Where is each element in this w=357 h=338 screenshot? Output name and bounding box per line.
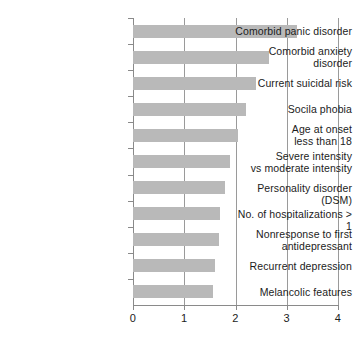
x-tick-0 bbox=[133, 305, 134, 310]
category-tick bbox=[128, 227, 133, 228]
bar bbox=[133, 207, 220, 220]
x-tick-label-0: 0 bbox=[118, 312, 148, 324]
category-label-line: Severe intensity bbox=[229, 150, 352, 162]
category-label: Nonresponse to firstantidepressant bbox=[229, 228, 357, 252]
category-label-line: less than 18 bbox=[229, 135, 352, 147]
category-label-line: vs moderate intensity bbox=[229, 162, 352, 174]
category-label-line: Personality disorder (DSM) bbox=[229, 182, 352, 206]
category-tick bbox=[128, 96, 133, 97]
category-label-line: Nonresponse to first bbox=[229, 228, 352, 240]
category-tick bbox=[128, 122, 133, 123]
category-label-line: Comorbid panic disorder bbox=[229, 25, 352, 37]
category-label: Recurrent depression bbox=[229, 260, 357, 272]
category-label-line: antidepressant bbox=[229, 240, 352, 252]
category-label-line: Socila phobia bbox=[229, 103, 352, 115]
category-label-line: Age at onset bbox=[229, 123, 352, 135]
category-label-line: disorder bbox=[229, 57, 352, 69]
category-tick bbox=[128, 18, 133, 19]
x-tick-1 bbox=[184, 305, 185, 310]
category-tick bbox=[128, 253, 133, 254]
category-label: Comorbid anxietydisorder bbox=[229, 45, 357, 69]
category-label: Personality disorder (DSM) bbox=[229, 182, 357, 206]
category-tick bbox=[128, 148, 133, 149]
x-tick-label-2: 2 bbox=[221, 312, 251, 324]
bar bbox=[133, 233, 219, 246]
bar bbox=[133, 181, 225, 194]
x-tick-label-1: 1 bbox=[169, 312, 199, 324]
x-tick-label-3: 3 bbox=[272, 312, 302, 324]
category-label-line: Melancolic features bbox=[229, 286, 352, 298]
category-label: Age at onsetless than 18 bbox=[229, 123, 357, 147]
x-tick-4 bbox=[338, 305, 339, 310]
category-label: Current suicidal risk bbox=[229, 77, 357, 89]
x-tick-3 bbox=[287, 305, 288, 310]
category-tick bbox=[128, 175, 133, 176]
category-tick bbox=[128, 279, 133, 280]
category-label: Comorbid panic disorder bbox=[229, 25, 357, 37]
x-tick-label-4: 4 bbox=[323, 312, 353, 324]
bar bbox=[133, 285, 213, 298]
category-tick bbox=[128, 70, 133, 71]
category-label-line: Comorbid anxiety bbox=[229, 45, 352, 57]
bar bbox=[133, 129, 238, 142]
bar bbox=[133, 259, 215, 272]
bar bbox=[133, 155, 230, 168]
category-tick bbox=[128, 44, 133, 45]
category-label: Melancolic features bbox=[229, 286, 357, 298]
category-label-line: Current suicidal risk bbox=[229, 77, 352, 89]
bar-chart-figure: 01234 Comorbid panic disorderComorbid an… bbox=[0, 0, 357, 338]
category-label-line: Recurrent depression bbox=[229, 260, 352, 272]
x-tick-2 bbox=[236, 305, 237, 310]
category-tick bbox=[128, 201, 133, 202]
category-label: Severe intensityvs moderate intensity bbox=[229, 150, 357, 174]
category-label: Socila phobia bbox=[229, 103, 357, 115]
